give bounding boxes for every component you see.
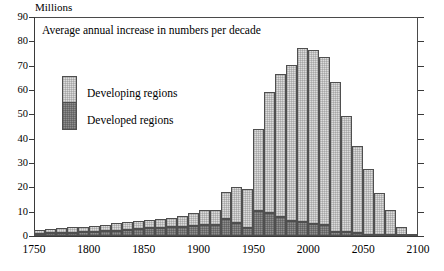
bar-decade-1790 (78, 227, 89, 236)
right-axis-tick (418, 187, 424, 188)
bar-decade-1870 (166, 218, 177, 236)
bar-decade-2030 (341, 116, 352, 236)
bar-decade-1960 (264, 92, 275, 236)
population-increase-chart: Millions Average annual increase in numb… (0, 0, 444, 271)
bar-decade-1830 (122, 222, 133, 236)
legend-label-developing: Developing regions (87, 87, 177, 99)
right-axis-tick (418, 41, 424, 42)
y-axis-tick-label: 0 (6, 231, 28, 241)
bar-decade-2080 (396, 227, 407, 236)
bar-decade-1780 (67, 227, 78, 236)
bar-decade-1900 (199, 210, 210, 236)
bar-decade-1910 (210, 210, 221, 236)
legend-swatch-developed (63, 103, 76, 129)
x-axis-tick-label: 1900 (176, 243, 222, 255)
bar-decade-1970 (275, 74, 286, 236)
bar-segment-developing (210, 210, 221, 225)
x-axis-tick-label: 2100 (395, 243, 441, 255)
x-axis-tick-label: 1750 (11, 243, 57, 255)
bar-segment-developing (308, 50, 319, 224)
x-axis-tick-label: 1800 (66, 243, 112, 255)
right-axis-tick (418, 212, 424, 213)
y-axis-unit-label: Millions (35, 1, 72, 13)
bar-decade-1840 (133, 221, 144, 236)
bar-decade-1980 (286, 65, 297, 236)
bar-decade-2070 (385, 210, 396, 236)
bar-decade-2010 (319, 57, 330, 236)
bar-segment-developed (177, 227, 188, 236)
bar-segment-developed (385, 234, 396, 236)
bar-decade-1770 (56, 228, 67, 236)
bar-decade-1820 (111, 223, 122, 236)
bar-segment-developing (133, 221, 144, 229)
x-axis-tick-label: 1950 (230, 243, 276, 255)
bar-segment-developing (374, 193, 385, 235)
bar-decade-1760 (45, 229, 56, 236)
right-axis-tick (418, 66, 424, 67)
bar-decade-1950 (253, 129, 264, 236)
bar-segment-developed (45, 233, 56, 236)
bar-decade-1930 (231, 187, 242, 236)
bar-segment-developed (275, 217, 286, 236)
bar-decade-1860 (155, 219, 166, 236)
bar-segment-developing (330, 82, 341, 232)
bar-decade-2000 (308, 50, 319, 236)
bar-segment-developing (352, 146, 363, 233)
legend-swatch (62, 76, 77, 130)
y-axis-tick (29, 236, 35, 237)
bar-series-container (34, 17, 418, 236)
bar-decade-2020 (330, 82, 341, 236)
y-axis-tick-label: 30 (6, 158, 28, 168)
bar-segment-developed (67, 233, 78, 236)
bar-segment-developing (188, 213, 199, 225)
bar-segment-developing (166, 218, 177, 227)
bar-segment-developed (396, 234, 407, 236)
bar-segment-developed (330, 232, 341, 236)
right-axis-tick (418, 236, 424, 237)
right-axis-tick (418, 163, 424, 164)
bar-segment-developed (199, 225, 210, 236)
bar-segment-developed (319, 225, 330, 236)
bar-segment-developing (286, 65, 297, 221)
right-axis-tick (418, 90, 424, 91)
bar-segment-developing (385, 210, 396, 235)
bar-segment-developed (210, 225, 221, 236)
bar-segment-developing (199, 210, 210, 225)
bar-segment-developed (100, 231, 111, 236)
bar-decade-2090 (407, 235, 418, 236)
bar-segment-developed (188, 226, 199, 236)
bar-segment-developing (144, 220, 155, 228)
bar-segment-developed (155, 228, 166, 236)
x-axis-tick-label: 2050 (340, 243, 386, 255)
y-axis-tick-label: 10 (6, 207, 28, 217)
bar-decade-1800 (89, 226, 100, 236)
y-axis-tick-label: 70 (6, 61, 28, 71)
bar-decade-1880 (177, 216, 188, 236)
y-axis-tick-label: 20 (6, 182, 28, 192)
bar-segment-developed (264, 213, 275, 236)
bar-segment-developing (242, 189, 253, 228)
y-axis-tick-label: 90 (6, 12, 28, 22)
bar-segment-developing (221, 192, 232, 218)
bar-segment-developed (308, 224, 319, 236)
x-axis-line (34, 236, 418, 237)
legend-label-developed: Developed regions (87, 114, 174, 126)
bar-segment-developed (78, 232, 89, 236)
bar-segment-developed (34, 234, 45, 236)
bar-segment-developed (363, 234, 374, 236)
bar-decade-1990 (297, 48, 308, 236)
bar-segment-developed (133, 229, 144, 236)
bar-decade-2060 (374, 193, 385, 236)
bar-segment-developed (341, 232, 352, 236)
bar-segment-developing (264, 92, 275, 213)
bar-segment-developed (111, 231, 122, 236)
bar-segment-developed (286, 221, 297, 236)
bar-segment-developed (374, 234, 385, 236)
bar-segment-developing (111, 223, 122, 230)
bar-decade-1850 (144, 220, 155, 236)
right-axis-tick (418, 139, 424, 140)
bar-decade-1810 (100, 225, 111, 236)
bar-segment-developed (144, 228, 155, 236)
bar-segment-developing (275, 74, 286, 217)
right-axis-tick (418, 114, 424, 115)
